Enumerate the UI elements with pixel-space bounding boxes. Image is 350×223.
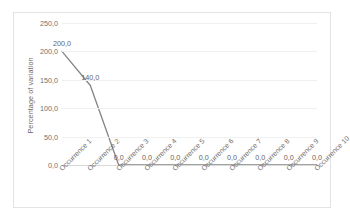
y-axis-tick-label: 0,0	[48, 161, 58, 170]
gridline	[62, 80, 317, 81]
y-axis-tick-label: 250,0	[40, 19, 58, 28]
gridline	[62, 165, 317, 166]
gridline	[62, 137, 317, 138]
data-label: 140,0	[81, 73, 99, 82]
data-label: 200,0	[53, 39, 71, 48]
y-axis-tick-label: 50,0	[44, 132, 58, 141]
gridline	[62, 23, 317, 24]
y-axis-title: Percentage of variation	[26, 42, 35, 150]
gridline	[62, 51, 317, 52]
chart-container: Percentage of variation 250,0200,0150,01…	[13, 12, 331, 208]
y-axis-tick-label: 150,0	[40, 75, 58, 84]
x-axis-labels: Occurrence 1Occurrence 2Occurrence 3Occu…	[62, 167, 317, 219]
gridline	[62, 108, 317, 109]
y-axis-tick-label: 100,0	[40, 104, 58, 113]
